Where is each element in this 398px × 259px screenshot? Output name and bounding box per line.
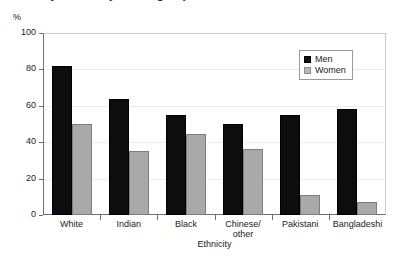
bar-chineseother-women [243,149,263,215]
y-axis-tick-label: 100 [0,28,36,37]
legend-item-women[interactable]: Women [304,65,346,76]
x-axis-category-label: Indian [100,219,157,229]
y-axis-tick-label: 20 [0,174,36,183]
bar-bangladeshi-women [357,202,377,215]
gridline [44,106,385,107]
bar-indian-men [109,99,129,215]
bar-bangladeshi-men [337,109,357,215]
legend-label-women: Women [315,65,346,76]
bar-chineseother-men [223,124,243,215]
legend-label-men: Men [315,54,333,65]
gridline [44,142,385,143]
x-axis-title: Ethnicity [43,239,386,249]
gridline [44,179,385,180]
y-axis-tick [39,33,43,34]
x-axis-category-label: Pakistani [272,219,329,229]
bar-white-men [52,66,72,215]
y-axis-tick [39,106,43,107]
bar-chart: % 020406080100 WhiteIndianBlackChinese/ … [0,0,398,259]
x-axis-category-label: Black [157,219,214,229]
legend-swatch-women-icon [304,67,311,74]
bar-indian-women [129,151,149,215]
x-axis-category-label: White [43,219,100,229]
y-axis-tick-label: 80 [0,64,36,73]
legend-swatch-men-icon [304,56,311,63]
bar-pakistani-women [300,195,320,215]
y-axis-unit-label: % [13,12,21,22]
y-axis-tick-label: 40 [0,137,36,146]
x-axis-category-label: Chinese/ other [215,219,272,239]
bar-black-men [166,115,186,215]
chart-legend: Men Women [299,50,353,80]
x-axis-category-label: Bangladeshi [329,219,386,229]
bar-pakistani-men [280,115,300,215]
y-axis-tick-label: 0 [0,210,36,219]
bar-black-women [186,134,206,215]
bar-white-women [72,124,92,215]
y-axis-tick [39,142,43,143]
legend-item-men[interactable]: Men [304,54,346,65]
y-axis-tick [39,179,43,180]
y-axis-tick [39,69,43,70]
y-axis-tick-label: 60 [0,101,36,110]
y-axis-tick [39,215,43,216]
